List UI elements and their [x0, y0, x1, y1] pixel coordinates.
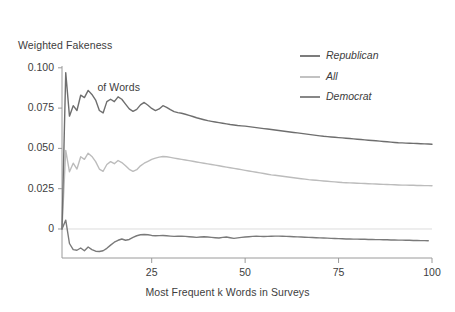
series-line-all	[62, 150, 432, 229]
legend-label-all: All	[326, 70, 338, 82]
y-axis-tick-label: 0.075	[8, 101, 54, 113]
y-axis-tick-label: 0.050	[8, 141, 54, 153]
y-axis-tick-label: 0.025	[8, 182, 54, 194]
legend-label-democrat: Democrat	[326, 90, 372, 102]
series-line-democrat	[62, 220, 428, 251]
legend-label-republican: Republican	[326, 49, 379, 61]
y-axis-tick-label: 0.100	[8, 61, 54, 73]
chart-title-line-1: Weighted Fakeness	[18, 38, 140, 52]
chart-figure: Weighted Fakeness of Words Most Frequent…	[0, 0, 455, 312]
x-axis-label: Most Frequent k Words in Surveys	[0, 286, 455, 298]
x-axis-tick-label: 25	[132, 266, 172, 278]
y-axis-tick-label: 0	[8, 222, 54, 234]
x-axis-tick-label: 50	[225, 266, 265, 278]
chart-title-line-2: of Words	[18, 80, 140, 94]
x-axis-tick-label: 75	[319, 266, 359, 278]
x-axis-tick-label: 100	[412, 266, 452, 278]
